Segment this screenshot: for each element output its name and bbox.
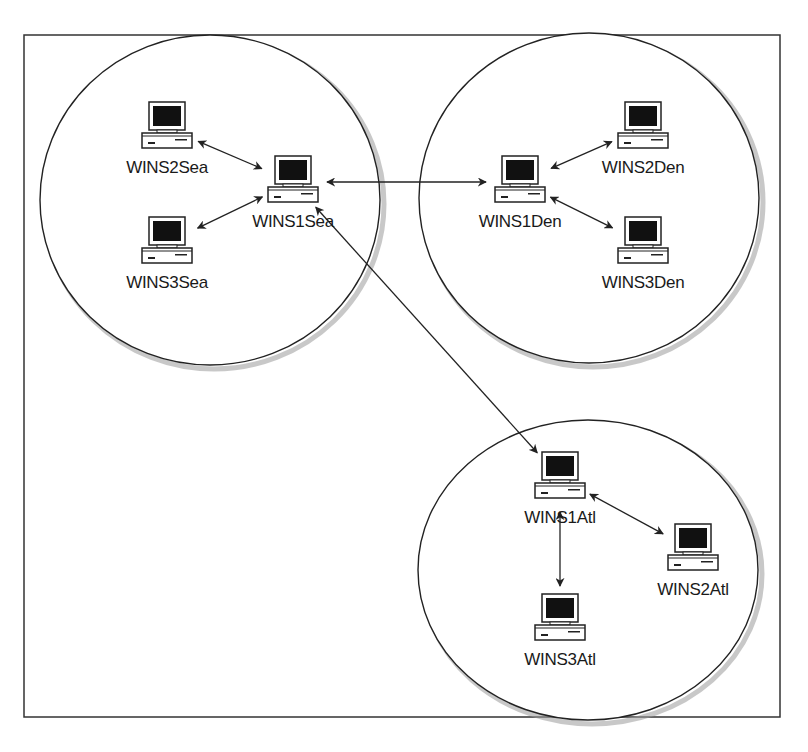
computer-icon [535, 452, 585, 498]
node-label: WINS1Sea [252, 212, 335, 231]
node-label: WINS2Den [602, 158, 685, 177]
computer-icon [142, 217, 192, 263]
node-label: WINS1Atl [524, 508, 595, 527]
node-label: WINS1Den [479, 212, 562, 231]
computer-icon [268, 156, 318, 202]
computer-icon [535, 594, 585, 640]
computer-icon [495, 156, 545, 202]
node-label: WINS2Atl [657, 580, 728, 599]
computer-icon [668, 524, 718, 570]
node-label: WINS2Sea [126, 158, 209, 177]
computer-icon [618, 217, 668, 263]
computer-icon [142, 102, 192, 148]
site-atl-circle [418, 420, 762, 724]
node-label: WINS3Sea [126, 273, 209, 292]
computer-icon [618, 102, 668, 148]
node-label: WINS3Den [602, 273, 685, 292]
wins-replication-diagram: WINS2SeaWINS1SeaWINS3SeaWINS1DenWINS2Den… [0, 0, 808, 752]
node-label: WINS3Atl [524, 650, 595, 669]
